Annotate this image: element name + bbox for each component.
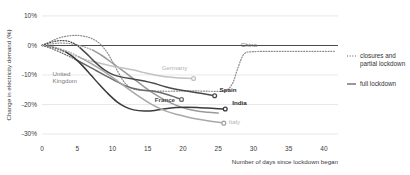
series-endpoint-germany bbox=[192, 77, 196, 81]
series-endpoint-france bbox=[180, 98, 184, 102]
legend-label-0-1: partial lockdown bbox=[360, 60, 406, 68]
legend-label-0-0: closures and bbox=[360, 52, 396, 59]
x-axis-tick-label: 40 bbox=[320, 145, 328, 152]
x-axis-tick-label: 15 bbox=[144, 145, 152, 152]
series-endpoint-spain bbox=[213, 94, 217, 98]
x-axis-tick-label: 0 bbox=[40, 145, 44, 152]
series-label-united-kingdom: United bbox=[53, 70, 71, 77]
y-axis-tick-label: -20% bbox=[22, 101, 37, 108]
x-axis-tick-label: 20 bbox=[179, 145, 187, 152]
y-axis-title: Change in electricity demand (%) bbox=[5, 29, 12, 120]
series-label-germany: Germany bbox=[162, 64, 188, 71]
x-axis-tick-label: 10 bbox=[109, 145, 117, 152]
series-label-italy: Italy bbox=[229, 118, 241, 125]
series-label-india: India bbox=[232, 99, 247, 106]
series-endpoint-italy bbox=[222, 121, 226, 125]
y-axis-tick-label: 10% bbox=[24, 12, 37, 19]
y-axis-tick-label: 0% bbox=[28, 42, 38, 49]
series-label-united-kingdom-2: Kingdom bbox=[53, 77, 77, 84]
electricity-demand-chart: 10%0%-10%-20%-30%0510152025303540Change … bbox=[0, 0, 410, 175]
y-axis-tick-label: -30% bbox=[22, 130, 37, 137]
series-label-china: China bbox=[241, 41, 258, 48]
y-axis-tick-label: -10% bbox=[22, 71, 37, 78]
x-axis-tick-label: 30 bbox=[250, 145, 258, 152]
x-axis-title: Number of days since lockdown began bbox=[232, 158, 339, 165]
series-endpoint-india bbox=[223, 107, 227, 111]
x-axis-tick-label: 5 bbox=[75, 145, 79, 152]
chart-canvas: 10%0%-10%-20%-30%0510152025303540Change … bbox=[0, 0, 410, 175]
legend-label-1-0: full lockdown bbox=[360, 80, 397, 87]
series-label-spain: Spain bbox=[220, 86, 237, 93]
x-axis-tick-label: 25 bbox=[215, 145, 223, 152]
series-line-partial-china bbox=[42, 35, 334, 91]
series-label-france: France bbox=[155, 96, 176, 103]
x-axis-tick-label: 35 bbox=[285, 145, 293, 152]
